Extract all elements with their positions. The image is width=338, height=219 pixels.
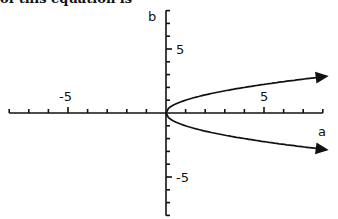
graph: -555-5ab (0, 0, 338, 219)
curve-lower (166, 113, 317, 149)
x-tick-label: 5 (260, 89, 268, 104)
y-tick-label: 5 (176, 42, 184, 57)
x-tick-label: -5 (59, 89, 72, 104)
arrowhead-icon (315, 142, 329, 154)
y-axis-label: b (148, 9, 156, 24)
curve-upper (166, 78, 317, 114)
y-tick-label: -5 (176, 170, 189, 185)
x-axis-label: a (318, 124, 326, 139)
arrowhead-icon (315, 72, 329, 84)
